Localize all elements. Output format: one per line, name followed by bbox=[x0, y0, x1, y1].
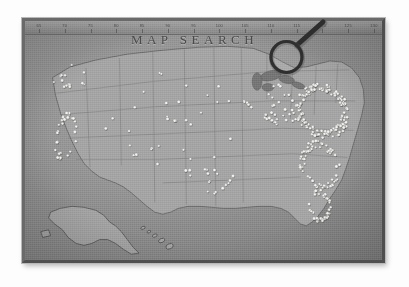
map-pin bbox=[75, 125, 78, 128]
map-pin bbox=[247, 103, 250, 107]
map-pin bbox=[142, 91, 145, 94]
map-pin bbox=[270, 111, 274, 115]
map-pin bbox=[319, 189, 322, 192]
map-pin bbox=[231, 174, 235, 178]
map-pin bbox=[298, 93, 302, 97]
map-pin bbox=[310, 210, 313, 213]
map-pin bbox=[311, 179, 315, 183]
map-pin bbox=[66, 154, 69, 157]
map-pin bbox=[200, 111, 203, 114]
map-pin bbox=[74, 140, 77, 143]
map-pin bbox=[308, 202, 312, 206]
map-pin bbox=[332, 135, 335, 138]
map-frame[interactable]: 65707580859095100105110115120125130 MAP … bbox=[22, 18, 385, 263]
map-pin bbox=[302, 170, 305, 173]
map-pin bbox=[321, 136, 324, 140]
map-pin bbox=[330, 93, 333, 96]
map-pin bbox=[216, 172, 219, 175]
pin-markers bbox=[25, 21, 382, 260]
ruler-tick-label: 75 bbox=[88, 23, 93, 28]
map-pin bbox=[306, 126, 309, 129]
map-pin bbox=[158, 145, 161, 148]
ruler-tick-label: 90 bbox=[165, 23, 170, 28]
map-pin bbox=[291, 108, 295, 112]
map-pin bbox=[216, 101, 219, 104]
map-pin bbox=[314, 184, 317, 188]
map-pin bbox=[271, 96, 274, 99]
map-pin bbox=[321, 142, 324, 146]
map-pin bbox=[279, 85, 283, 89]
map-pin bbox=[61, 122, 64, 125]
map-pin bbox=[189, 158, 192, 161]
map-pin bbox=[303, 158, 306, 162]
map-pin bbox=[343, 111, 346, 115]
map-pin bbox=[133, 106, 136, 109]
map-pin bbox=[64, 74, 67, 78]
map-pin bbox=[53, 81, 56, 84]
map-pin bbox=[188, 169, 192, 173]
map-pin bbox=[303, 163, 306, 166]
map-pin bbox=[302, 98, 306, 102]
map-pin bbox=[267, 93, 270, 96]
map-pin bbox=[185, 84, 188, 87]
map-surface: 65707580859095100105110115120125130 MAP … bbox=[25, 21, 382, 260]
map-pin bbox=[319, 146, 322, 149]
map-pin bbox=[227, 100, 230, 103]
map-pin bbox=[314, 146, 317, 149]
map-pin bbox=[160, 73, 163, 76]
map-pin bbox=[335, 165, 339, 169]
map-pin bbox=[111, 117, 114, 120]
map-pin bbox=[69, 150, 72, 153]
page-title: MAP SEARCH bbox=[25, 32, 382, 48]
ruler-tick-label: 95 bbox=[191, 23, 196, 28]
map-pin bbox=[307, 146, 310, 149]
map-pin bbox=[338, 163, 341, 167]
map-pin bbox=[325, 83, 329, 87]
map-pin bbox=[282, 114, 285, 117]
map-pin bbox=[135, 153, 139, 157]
map-pin bbox=[177, 100, 181, 104]
map-pin bbox=[284, 108, 288, 112]
map-pin bbox=[166, 117, 170, 121]
map-pin bbox=[61, 79, 65, 83]
ruler-tick-label: 115 bbox=[293, 23, 300, 28]
map-pin bbox=[71, 64, 74, 67]
map-pin bbox=[288, 113, 291, 116]
map-pin bbox=[305, 155, 308, 158]
map-pin bbox=[213, 169, 217, 173]
map-pin bbox=[58, 124, 61, 127]
map-pin bbox=[287, 93, 290, 97]
map-pin bbox=[346, 108, 349, 112]
map-pin bbox=[182, 149, 185, 152]
map-pin bbox=[318, 193, 321, 196]
map-pin bbox=[272, 85, 275, 88]
ruler-tick-label: 110 bbox=[267, 23, 274, 28]
map-pin bbox=[291, 99, 295, 103]
map-pin bbox=[313, 193, 316, 196]
map-pin bbox=[326, 212, 330, 216]
map-pin bbox=[229, 137, 233, 141]
map-pin bbox=[227, 182, 230, 185]
map-pin bbox=[331, 178, 334, 181]
map-pin bbox=[307, 142, 310, 146]
ruler-tick-label: 85 bbox=[140, 23, 145, 28]
map-pin bbox=[309, 176, 312, 179]
ruler-tick-label: 105 bbox=[242, 23, 249, 28]
map-pin bbox=[165, 101, 169, 105]
ruler-tick-label: 125 bbox=[345, 23, 352, 28]
map-pin bbox=[189, 174, 192, 177]
map-pin bbox=[81, 82, 84, 86]
ruler-tick-label: 65 bbox=[37, 23, 42, 28]
ruler-tick-label: 80 bbox=[114, 23, 119, 28]
map-pin bbox=[327, 182, 330, 185]
map-pin bbox=[104, 127, 108, 131]
photo-backdrop: 65707580859095100105110115120125130 MAP … bbox=[0, 0, 409, 287]
map-pin bbox=[225, 184, 228, 187]
map-pin bbox=[213, 156, 216, 159]
map-pin bbox=[73, 130, 77, 134]
ruler-tick-label: 120 bbox=[319, 23, 326, 28]
map-pin bbox=[66, 116, 70, 120]
map-pin bbox=[276, 118, 279, 121]
map-pin bbox=[291, 119, 294, 122]
map-pin bbox=[207, 190, 210, 193]
